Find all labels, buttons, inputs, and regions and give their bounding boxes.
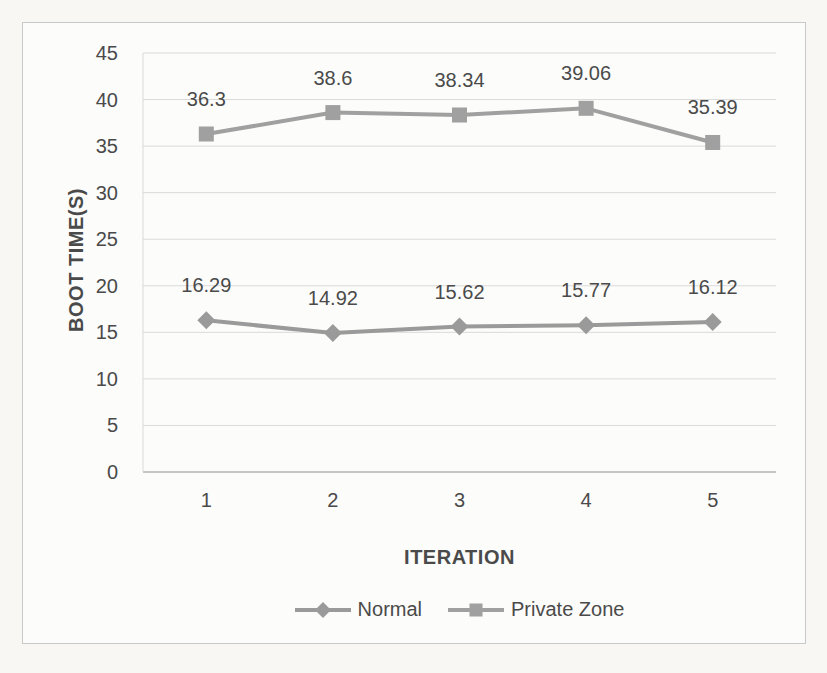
data-label: 36.3 <box>187 88 226 110</box>
x-tick-label: 1 <box>201 489 212 511</box>
x-tick-label: 2 <box>327 489 338 511</box>
y-tick-label: 35 <box>96 135 118 157</box>
diamond-marker <box>197 311 215 329</box>
data-label: 16.29 <box>181 274 231 296</box>
square-marker <box>325 105 340 120</box>
legend-label-private-zone: Private Zone <box>511 598 624 621</box>
scanned-page: 0510152025303540451234516.2914.9215.6215… <box>0 0 827 673</box>
data-label: 15.77 <box>561 279 611 301</box>
private-zone-series-legend-marker-icon <box>448 601 504 619</box>
diamond-marker <box>324 324 342 342</box>
data-label: 38.34 <box>434 69 484 91</box>
data-label: 15.62 <box>434 281 484 303</box>
y-tick-label: 5 <box>107 414 118 436</box>
square-marker <box>452 108 467 123</box>
legend-item-normal: Normal <box>295 598 422 621</box>
square-marker <box>199 127 214 142</box>
x-tick-label: 3 <box>454 489 465 511</box>
y-tick-label: 30 <box>96 182 118 204</box>
x-axis-title: ITERATION <box>143 546 776 569</box>
diamond-marker <box>451 318 469 336</box>
x-tick-label: 5 <box>707 489 718 511</box>
boot-time-chart: 0510152025303540451234516.2914.9215.6215… <box>22 22 806 644</box>
y-axis-title: BOOT TIME(S) <box>65 188 88 332</box>
y-tick-label: 25 <box>96 228 118 250</box>
y-tick-label: 40 <box>96 89 118 111</box>
square-marker <box>705 135 720 150</box>
normal-series-legend-marker-icon <box>295 601 351 619</box>
legend-label-normal: Normal <box>358 598 422 621</box>
x-tick-label: 4 <box>581 489 592 511</box>
legend-item-private-zone: Private Zone <box>448 598 624 621</box>
data-label: 38.6 <box>313 67 352 89</box>
diamond-marker-icon <box>315 602 331 618</box>
y-tick-label: 45 <box>96 42 118 64</box>
data-label: 35.39 <box>688 96 738 118</box>
y-tick-label: 15 <box>96 321 118 343</box>
y-tick-label: 10 <box>96 368 118 390</box>
square-marker-icon <box>470 603 483 616</box>
y-tick-label: 0 <box>107 461 118 483</box>
data-label: 39.06 <box>561 62 611 84</box>
square-marker <box>579 101 594 116</box>
diamond-marker <box>577 316 595 334</box>
diamond-marker <box>704 313 722 331</box>
data-label: 14.92 <box>308 287 358 309</box>
y-tick-label: 20 <box>96 275 118 297</box>
data-label: 16.12 <box>688 276 738 298</box>
legend: Normal Private Zone <box>143 598 776 621</box>
